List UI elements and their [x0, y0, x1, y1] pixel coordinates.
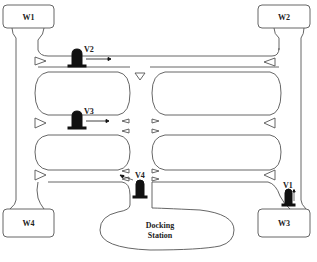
direction-arrow-icon — [152, 177, 159, 181]
vehicle-v1-label: V1 — [283, 181, 293, 190]
left-lane-outer — [10, 28, 16, 209]
direction-arrow-icon — [152, 119, 159, 123]
direction-arrow-icon — [135, 73, 145, 80]
block-right-lower — [152, 135, 281, 170]
direction-arrow-icon — [152, 169, 159, 173]
direction-arrow-icon — [122, 169, 129, 173]
block-left-upper — [35, 72, 130, 115]
vehicle-v3-label: V3 — [84, 107, 94, 116]
vehicle-v1-icon — [282, 189, 295, 206]
block-right-upper — [152, 72, 281, 115]
warehouse-w4-label: W4 — [3, 219, 54, 228]
warehouse-w1-label: W1 — [3, 13, 54, 22]
docking-station-label-line1: Docking — [120, 221, 200, 230]
direction-arrow-icon — [35, 170, 46, 180]
vehicle-v2-label: V2 — [84, 45, 94, 54]
bottom-lane-left — [37, 182, 44, 209]
left-lane-inner — [38, 28, 44, 50]
right-lane-inner — [274, 28, 279, 50]
block-left-lower — [35, 135, 130, 170]
docking-station-label-line2: Station — [120, 231, 200, 240]
vehicle-v4-label: V4 — [135, 171, 145, 180]
warehouse-w2-label: W2 — [258, 13, 310, 22]
direction-arrow-icon — [264, 118, 275, 128]
direction-arrow-icon — [122, 129, 129, 133]
right-lane-outer — [301, 28, 306, 209]
direction-arrow-icon — [35, 57, 46, 65]
direction-arrow-icon — [35, 118, 46, 128]
direction-arrow-icon — [152, 129, 159, 133]
direction-arrow-icon — [264, 170, 275, 180]
direction-arrow-icon — [264, 58, 275, 66]
warehouse-w3-label: W3 — [258, 219, 310, 228]
direction-arrow-icon — [122, 119, 129, 123]
